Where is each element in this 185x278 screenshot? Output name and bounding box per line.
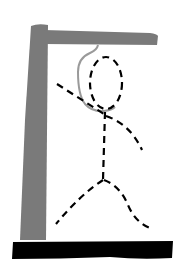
noose-rope	[78, 45, 115, 111]
figure-head	[90, 57, 122, 109]
figure-body	[103, 112, 105, 180]
gallows-post	[20, 24, 48, 240]
gallows-base	[12, 241, 173, 259]
figure-left-leg	[56, 180, 103, 224]
figure-right-arm	[106, 116, 142, 150]
hangman-canvas: Hangman drawing - full figure	[0, 0, 185, 278]
figure-right-leg	[104, 180, 150, 228]
gallows-beam	[44, 30, 158, 45]
figure-left-arm	[57, 84, 104, 114]
